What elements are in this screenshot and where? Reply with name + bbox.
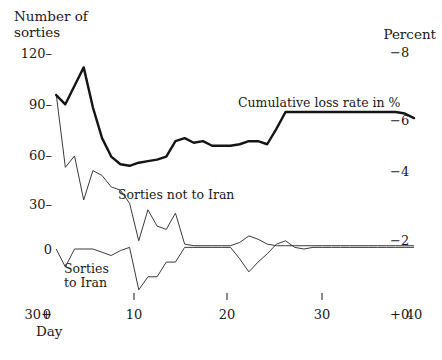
series-path-sorties-not-to-iran — [56, 94, 414, 246]
plot-area — [0, 0, 442, 360]
chart-figure: Number ofsorties Percent 120– 90– 60– 30… — [0, 0, 442, 360]
series-path-sorties-to-iran — [56, 241, 414, 290]
series-paths — [56, 67, 414, 289]
x-axis-tickmarks — [134, 293, 322, 300]
series-path-cumulative-loss-rate — [56, 67, 414, 165]
